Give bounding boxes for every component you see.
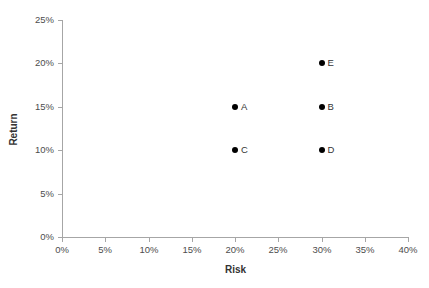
x-tick-mark (149, 238, 150, 242)
data-point-label: C (241, 145, 248, 155)
x-tick-mark (322, 238, 323, 242)
data-point-label: B (328, 102, 334, 112)
x-tick-mark (235, 238, 236, 242)
x-tick-mark (365, 238, 366, 242)
x-tick-label: 30% (302, 245, 342, 255)
scatter-chart: 0%5%10%15%20%25% 0%5%10%15%20%25%30%35%4… (0, 0, 429, 288)
x-tick-label: 0% (42, 245, 82, 255)
x-tick-label: 10% (129, 245, 169, 255)
x-tick-mark (408, 238, 409, 242)
data-point-marker (232, 147, 238, 153)
y-tick-mark (58, 194, 62, 195)
data-point-marker (319, 60, 325, 66)
x-tick-mark (62, 238, 63, 242)
y-tick-mark (58, 107, 62, 108)
x-tick-label: 20% (215, 245, 255, 255)
data-point-marker (232, 104, 238, 110)
x-tick-label: 40% (388, 245, 428, 255)
data-point-label: E (328, 58, 334, 68)
data-point-marker (319, 147, 325, 153)
y-tick-mark (58, 20, 62, 21)
x-tick-mark (192, 238, 193, 242)
y-axis-title: Return (2, 0, 24, 258)
x-tick-mark (278, 238, 279, 242)
x-tick-label: 25% (258, 245, 298, 255)
data-point-label: A (241, 102, 247, 112)
y-axis-title-text: Return (8, 113, 19, 145)
x-tick-mark (105, 238, 106, 242)
y-tick-mark (58, 63, 62, 64)
y-tick-mark (58, 150, 62, 151)
y-axis-line (62, 20, 63, 238)
x-tick-label: 35% (345, 245, 385, 255)
data-point-label: D (328, 145, 335, 155)
x-tick-label: 15% (172, 245, 212, 255)
data-point-marker (319, 104, 325, 110)
x-axis-title: Risk (62, 264, 409, 275)
x-tick-label: 5% (85, 245, 125, 255)
